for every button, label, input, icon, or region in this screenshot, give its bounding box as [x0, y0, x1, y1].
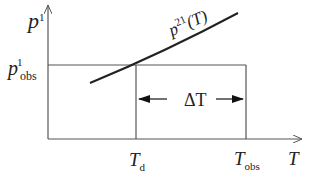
t-obs-label: Tobs [234, 149, 260, 168]
t-d-subscript: d [140, 161, 146, 173]
p21-curve [90, 13, 238, 83]
t-d-symbol: T [129, 149, 140, 170]
y-axis-symbol: p [28, 8, 39, 33]
t-obs-symbol: T [234, 148, 245, 169]
delta-t-text: ΔT [184, 90, 207, 110]
delta-t-label: ΔT [184, 91, 207, 109]
diagram-canvas [0, 0, 309, 174]
y-axis-superscript: 1 [39, 11, 45, 23]
x-axis-symbol: T [288, 148, 299, 169]
p-obs-subscript: obs [20, 70, 37, 82]
x-axis-label: T [288, 149, 299, 168]
t-obs-subscript: obs [245, 160, 260, 172]
t-d-label: Td [129, 150, 145, 169]
y-axis-label: p1 [28, 10, 45, 32]
p-obs-superscript: 1 [17, 57, 23, 68]
